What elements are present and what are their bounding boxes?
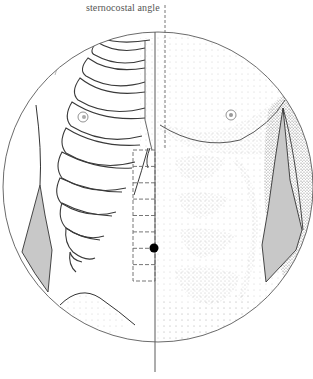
anatomical-diagram: sternocostal angle (0, 0, 313, 379)
rib-cage (22, 38, 155, 335)
acupoint-marker (150, 244, 159, 253)
label-sternocostal-angle: sternocostal angle (86, 2, 160, 13)
skin-surface (155, 30, 313, 350)
measurement-grid (133, 150, 155, 281)
torso-illustration (0, 0, 313, 379)
